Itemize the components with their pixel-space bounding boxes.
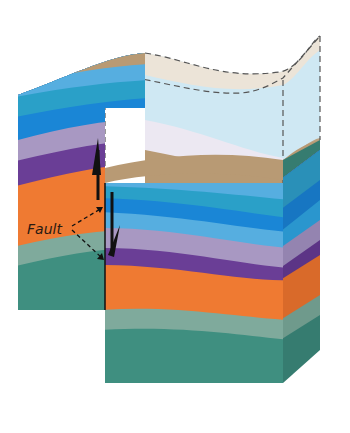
fault-diagram: [0, 0, 350, 433]
fault-label: Fault: [27, 221, 62, 237]
right-block-hangingwall: [100, 180, 290, 390]
right-block-side: [280, 130, 325, 390]
